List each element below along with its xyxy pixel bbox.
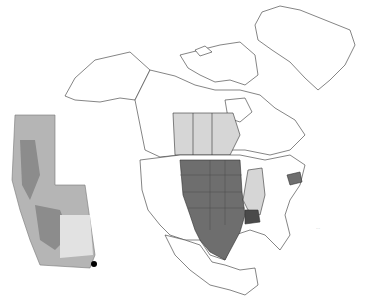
distribution-map: ···	[0, 0, 369, 304]
alberta-inset	[12, 115, 97, 268]
prairie-provinces	[173, 113, 240, 155]
arctic-islands-outline	[180, 42, 258, 85]
point-marker	[91, 261, 97, 267]
north-america-map	[0, 0, 369, 304]
arkansas-dark	[245, 210, 260, 224]
greenland-outline	[255, 6, 355, 90]
scale-label: ···	[316, 226, 320, 231]
alaska-outline	[65, 52, 150, 102]
